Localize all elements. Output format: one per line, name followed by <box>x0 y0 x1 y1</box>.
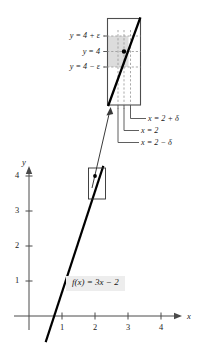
y-axis-arrowhead <box>26 166 32 174</box>
y-axis-label: y <box>22 158 26 167</box>
x-axis-arrowhead <box>174 313 182 319</box>
leader-delta-upper <box>131 105 147 119</box>
magnified-view <box>103 19 146 143</box>
label-x-delta-upper: x = 2 + δ <box>148 115 179 123</box>
x-tick-label-3: 3 <box>123 324 133 332</box>
label-x-two: x = 2 <box>141 127 158 135</box>
main-graph <box>14 166 182 341</box>
y-tick-label-3: 3 <box>12 207 22 215</box>
y-tick-label-4: 4 <box>12 172 22 180</box>
function-equation-label: f(x) = 3x − 2 <box>66 276 125 291</box>
limit-point-marker <box>122 49 126 53</box>
x-tick-label-4: 4 <box>156 324 166 332</box>
leader-x-two <box>124 105 139 131</box>
main-point-marker <box>93 174 97 178</box>
label-y-epsilon-upper: y = 4 + ε <box>70 32 100 40</box>
x-tick-label-1: 1 <box>57 324 67 332</box>
label-y-limit: y = 4 <box>83 48 100 56</box>
y-tick-label-2: 2 <box>12 242 22 250</box>
figure-canvas <box>0 0 205 349</box>
x-tick-label-2: 2 <box>90 324 100 332</box>
y-tick-label-1: 1 <box>12 277 22 285</box>
label-x-delta-lower: x = 2 − δ <box>141 139 172 147</box>
function-line <box>46 167 103 341</box>
label-y-epsilon-lower: y = 4 − ε <box>70 63 100 71</box>
leader-delta-lower <box>118 105 139 143</box>
x-axis-label: x <box>187 312 191 321</box>
zoom-arrow-head <box>106 107 113 116</box>
limit-definition-figure: y = 4 + ε y = 4 y = 4 − ε x = 2 + δ x = … <box>0 0 205 349</box>
